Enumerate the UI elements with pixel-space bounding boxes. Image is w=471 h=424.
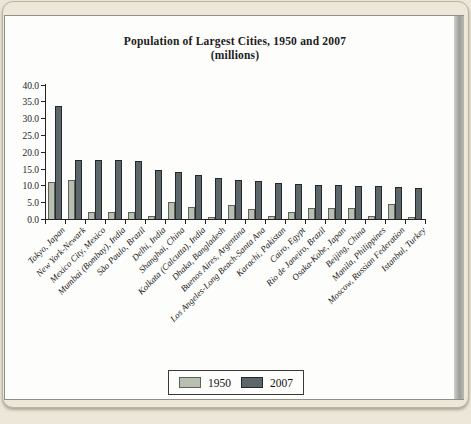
bar-2007-13: [295, 184, 302, 219]
y-tick: [41, 85, 45, 86]
bar-chart: Population of Largest Cities, 1950 and 2…: [0, 0, 471, 424]
y-tick-label: 25.0: [9, 131, 39, 141]
x-tick: [225, 220, 226, 224]
y-tick: [41, 135, 45, 136]
x-tick: [325, 220, 326, 224]
bar-1950-9: [208, 217, 215, 219]
bar-2007-6: [155, 170, 162, 219]
bar-1950-8: [188, 207, 195, 219]
bar-2007-7: [175, 172, 182, 219]
bar-2007-9: [215, 178, 222, 219]
bar-1950-13: [288, 212, 295, 219]
y-tick-label: 10.0: [9, 181, 39, 191]
y-tick-label: 15.0: [9, 165, 39, 175]
bar-1950-11: [248, 209, 255, 219]
x-tick: [265, 220, 266, 224]
x-tick: [105, 220, 106, 224]
bar-2007-1: [55, 106, 62, 219]
bar-2007-8: [195, 175, 202, 219]
bar-2007-18: [395, 187, 402, 219]
x-axis-line: [45, 219, 426, 220]
legend-item-1950: 1950: [179, 377, 231, 389]
legend-label-2007: 2007: [270, 377, 293, 389]
x-tick: [425, 220, 426, 224]
x-tick: [205, 220, 206, 224]
x-tick: [405, 220, 406, 224]
bar-1950-1: [48, 182, 55, 219]
bar-1950-5: [128, 212, 135, 219]
bar-2007-4: [115, 160, 122, 219]
bar-1950-18: [388, 204, 395, 219]
legend-label-1950: 1950: [208, 377, 231, 389]
bar-1950-10: [228, 205, 235, 219]
bar-1950-14: [308, 208, 315, 219]
y-tick: [41, 152, 45, 153]
bar-1950-19: [408, 217, 415, 219]
bar-2007-5: [135, 161, 142, 219]
y-tick: [41, 169, 45, 170]
chart-subtitle: (millions): [45, 49, 425, 61]
y-tick: [41, 185, 45, 186]
bar-2007-17: [375, 186, 382, 219]
y-tick: [41, 202, 45, 203]
bar-1950-16: [348, 208, 355, 219]
y-tick-label: 0.0: [9, 215, 39, 225]
x-tick: [165, 220, 166, 224]
bar-1950-4: [108, 212, 115, 219]
legend: 19502007: [168, 370, 304, 395]
x-tick: [85, 220, 86, 224]
legend-item-2007: 2007: [241, 377, 293, 389]
bar-1950-3: [88, 212, 95, 219]
bar-1950-15: [328, 208, 335, 219]
y-tick: [41, 118, 45, 119]
bar-2007-15: [335, 185, 342, 219]
x-tick: [65, 220, 66, 224]
bar-1950-12: [268, 216, 275, 219]
bar-2007-14: [315, 185, 322, 219]
y-tick-label: 40.0: [9, 81, 39, 91]
x-tick: [285, 220, 286, 224]
x-tick: [145, 220, 146, 224]
bar-1950-2: [68, 180, 75, 219]
bar-2007-19: [415, 188, 422, 219]
y-tick-label: 30.0: [9, 114, 39, 124]
bar-2007-2: [75, 160, 82, 219]
bar-2007-11: [255, 181, 262, 219]
bar-2007-10: [235, 180, 242, 219]
y-axis-line: [45, 84, 46, 219]
x-tick: [365, 220, 366, 224]
y-tick-label: 20.0: [9, 148, 39, 158]
bar-1950-6: [148, 216, 155, 219]
bar-2007-16: [355, 186, 362, 219]
x-tick: [45, 220, 46, 224]
x-tick: [125, 220, 126, 224]
legend-swatch-1950: [179, 377, 201, 388]
bar-2007-12: [275, 183, 282, 219]
x-tick: [185, 220, 186, 224]
x-tick: [245, 220, 246, 224]
x-tick: [385, 220, 386, 224]
bar-1950-7: [168, 202, 175, 219]
y-tick: [41, 101, 45, 102]
x-tick: [305, 220, 306, 224]
chart-title: Population of Largest Cities, 1950 and 2…: [45, 35, 425, 47]
y-tick-label: 5.0: [9, 198, 39, 208]
x-tick: [345, 220, 346, 224]
bar-1950-17: [368, 216, 375, 219]
bar-2007-3: [95, 160, 102, 219]
legend-swatch-2007: [241, 377, 263, 388]
y-tick-label: 35.0: [9, 97, 39, 107]
